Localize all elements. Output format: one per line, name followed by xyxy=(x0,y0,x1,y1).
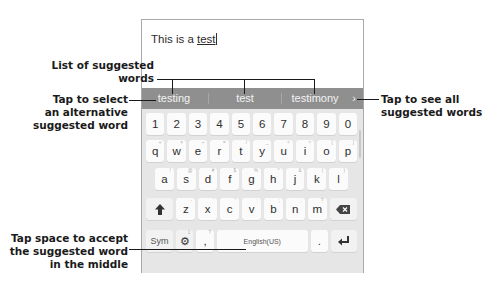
suggestion-test[interactable]: test xyxy=(210,88,280,109)
key-x[interactable]: 'x xyxy=(198,198,217,220)
enter-icon xyxy=(338,236,350,246)
key-7[interactable]: 7 xyxy=(274,113,292,135)
key-d[interactable]: #d xyxy=(199,168,218,190)
key-hint: ^ xyxy=(278,168,280,173)
key-label: d xyxy=(205,173,211,185)
key-label: 4 xyxy=(216,118,222,130)
key-l[interactable]: )l xyxy=(329,168,348,190)
key-y[interactable]: _y xyxy=(253,140,271,162)
key-h[interactable]: ^h xyxy=(264,168,283,190)
comma-label: , xyxy=(204,235,207,247)
key-k[interactable]: (k xyxy=(307,168,326,190)
qwerty-row: +q×w÷e=r/t_y<u>i[o]p xyxy=(146,140,357,162)
backspace-key[interactable] xyxy=(330,198,357,220)
key-e[interactable]: ÷e xyxy=(189,140,207,162)
key-u[interactable]: <u xyxy=(274,140,292,162)
key-o[interactable]: [o xyxy=(317,140,335,162)
key-t[interactable]: /t xyxy=(232,140,250,162)
key-hint: ! xyxy=(170,168,171,173)
key-label: f xyxy=(228,173,231,185)
gear-icon: ⚙ xyxy=(180,235,190,248)
key-6[interactable]: 6 xyxy=(253,113,271,135)
key-b[interactable]: ;b xyxy=(264,198,283,220)
scroll-indicator xyxy=(359,130,361,158)
underlined-word: test xyxy=(197,33,216,45)
annotation-line: suggested words xyxy=(381,106,496,119)
key-v[interactable]: :v xyxy=(242,198,261,220)
key-label: 1 xyxy=(152,118,158,130)
key-f[interactable]: $f xyxy=(220,168,239,190)
typed-text: This is a test xyxy=(151,33,217,45)
key-5[interactable]: 5 xyxy=(232,113,250,135)
key-m[interactable]: ?m xyxy=(308,198,327,220)
bottom-letter-row: -z'x"c:v;b,n?m xyxy=(146,198,357,220)
key-4[interactable]: 4 xyxy=(210,113,228,135)
annotation-line: Tap to select xyxy=(6,93,128,106)
key-8[interactable]: 8 xyxy=(296,113,314,135)
key-1[interactable]: 1 xyxy=(146,113,164,135)
key-hint: & xyxy=(298,168,301,173)
key-z[interactable]: -z xyxy=(176,198,195,220)
shift-key[interactable] xyxy=(146,198,173,220)
key-hint: ' xyxy=(213,198,214,203)
key-hint: $ xyxy=(234,168,237,173)
key-label: b xyxy=(270,203,276,215)
key-hint: < xyxy=(287,140,290,145)
leader-line-see-all xyxy=(357,99,379,100)
key-3[interactable]: 3 xyxy=(189,113,207,135)
text-prefix: This is a xyxy=(151,33,197,45)
suggestion-divider xyxy=(208,93,209,104)
key-label: s xyxy=(183,173,189,185)
annotation-tap-to-see-all: Tap to see all suggested words xyxy=(381,93,496,119)
key-label: e xyxy=(195,145,201,157)
key-q[interactable]: +q xyxy=(146,140,164,162)
key-label: 2 xyxy=(173,118,179,130)
key-hint: ] xyxy=(353,140,354,145)
key-label: 9 xyxy=(323,118,329,130)
key-label: r xyxy=(218,145,222,157)
key-s[interactable]: @s xyxy=(177,168,196,190)
key-label: u xyxy=(280,145,286,157)
phone-screen: This is a test testing test testimony › … xyxy=(141,19,364,273)
annotation-line: suggested word xyxy=(6,119,128,132)
enter-key[interactable] xyxy=(331,230,357,252)
key-0[interactable]: 0 xyxy=(339,113,357,135)
key-label: x xyxy=(205,203,211,215)
key-j[interactable]: &j xyxy=(286,168,305,190)
period-key[interactable]: . xyxy=(311,230,329,252)
key-n[interactable]: ,n xyxy=(286,198,305,220)
suggestion-testimony[interactable]: testimony xyxy=(282,88,348,109)
leader-line-list xyxy=(157,79,314,80)
key-hint: _ xyxy=(266,140,269,145)
key-r[interactable]: =r xyxy=(210,140,228,162)
key-9[interactable]: 9 xyxy=(317,113,335,135)
key-label: 8 xyxy=(302,118,308,130)
annotation-tap-space: Tap space to accept the suggested word i… xyxy=(2,232,128,271)
suggestion-testing[interactable]: testing xyxy=(142,88,206,109)
key-hint: / xyxy=(246,140,247,145)
key-label: 6 xyxy=(259,118,265,130)
text-input-area[interactable]: This is a test xyxy=(142,20,363,88)
key-hint: , xyxy=(300,198,301,203)
number-row: 1234567890 xyxy=(146,113,357,135)
key-label: 5 xyxy=(238,118,244,130)
home-row: !a@s#d$f%g^h&j(k)l xyxy=(155,168,348,190)
key-hint: # xyxy=(212,168,215,173)
key-label: k xyxy=(314,173,320,185)
annotation-line: List of suggested xyxy=(20,59,154,72)
key-i[interactable]: >i xyxy=(296,140,314,162)
key-w[interactable]: ×w xyxy=(167,140,185,162)
key-hint: : xyxy=(257,198,258,203)
key-p[interactable]: ]p xyxy=(339,140,357,162)
key-a[interactable]: !a xyxy=(155,168,174,190)
key-label: 0 xyxy=(345,118,351,130)
key-hint: [ xyxy=(331,140,332,145)
key-2[interactable]: 2 xyxy=(167,113,185,135)
key-hint: = xyxy=(223,140,226,145)
key-g[interactable]: %g xyxy=(242,168,261,190)
key-label: n xyxy=(292,203,298,215)
key-c[interactable]: "c xyxy=(220,198,239,220)
annotation-list-of-suggested-words: List of suggested words xyxy=(20,59,154,85)
key-label: h xyxy=(270,173,276,185)
backspace-icon xyxy=(336,205,350,214)
